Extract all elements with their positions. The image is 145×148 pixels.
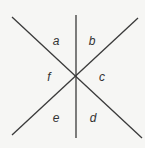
angle-label-e: e (53, 112, 60, 124)
angle-label-d: d (90, 112, 97, 124)
angle-label-c: c (99, 71, 105, 83)
angle-label-a: a (53, 35, 60, 47)
angle-label-b: b (89, 35, 96, 47)
intersecting-lines-diagram (0, 0, 145, 148)
descending-diagonal-line (12, 17, 142, 138)
angle-label-f: f (47, 71, 50, 83)
